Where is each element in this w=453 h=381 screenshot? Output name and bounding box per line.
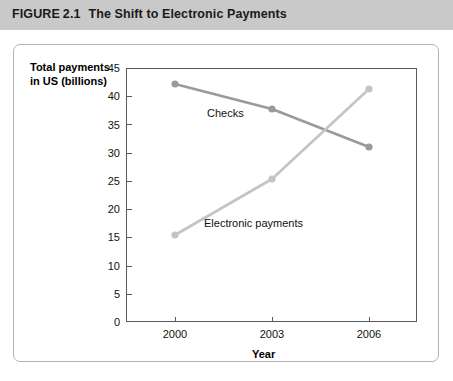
series-electronic-payments-point-2000 — [171, 231, 178, 238]
series-label-electronic-payments: Electronic payments — [204, 217, 303, 229]
series-label-checks: Checks — [207, 107, 244, 119]
series-electronic-payments-point-2003 — [268, 175, 275, 182]
bottom-caption — [10, 370, 445, 381]
series-electronic-payments-point-2006 — [365, 85, 372, 92]
chart: Total payments in US (billions) 45 40 35… — [0, 0, 453, 381]
series-checks-point-2000 — [171, 80, 178, 87]
series-checks-point-2006 — [365, 143, 372, 150]
series-checks-point-2003 — [268, 105, 275, 112]
series-checks — [171, 80, 372, 150]
series-svg — [0, 0, 453, 381]
